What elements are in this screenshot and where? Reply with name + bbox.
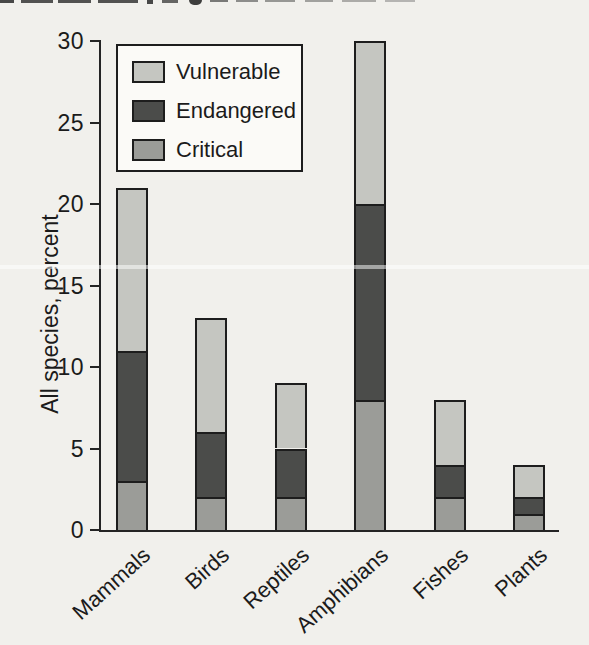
y-tick-30	[90, 40, 100, 42]
torn-text-mark	[21, 0, 53, 3]
legend-swatch-endangered	[132, 100, 165, 122]
endangered-species-stacked-bar-chart: All species, percent 051015202530 Mammal…	[0, 0, 589, 645]
torn-text-mark	[58, 0, 91, 3]
bar-plants-vulnerable	[513, 465, 545, 498]
legend-swatch-vulnerable	[132, 61, 165, 83]
bar-reptiles-critical	[275, 497, 307, 530]
bar-amphibians-endangered	[354, 204, 386, 400]
y-tick-0	[90, 529, 100, 531]
y-tick-label-30: 30	[32, 28, 84, 54]
bar-amphibians-vulnerable	[354, 41, 386, 204]
y-tick-20	[90, 203, 100, 205]
torn-text-mark	[189, 0, 202, 5]
legend-item-critical: Critical	[132, 138, 301, 162]
bar-fishes-vulnerable	[434, 400, 466, 465]
torn-text-mark	[236, 0, 258, 2]
legend-label-critical: Critical	[176, 138, 243, 162]
torn-text-mark	[0, 0, 14, 3]
bar-plants-critical	[513, 514, 545, 530]
legend-item-vulnerable: Vulnerable	[132, 60, 301, 84]
y-tick-label-20: 20	[32, 191, 84, 217]
bar-plants-endangered	[513, 497, 545, 513]
bar-birds-vulnerable	[195, 318, 227, 432]
torn-text-mark	[342, 0, 376, 2]
y-tick-25	[90, 122, 100, 124]
bar-mammals-endangered	[116, 351, 148, 481]
legend: VulnerableEndangeredCritical	[116, 44, 303, 172]
torn-text-mark	[98, 0, 138, 3]
bar-fishes-endangered	[434, 465, 466, 498]
bar-mammals-critical	[116, 481, 148, 530]
x-axis-line	[99, 530, 559, 532]
legend-rows: VulnerableEndangeredCritical	[132, 60, 301, 162]
y-tick-label-15: 15	[32, 273, 84, 299]
y-tick-label-0: 0	[32, 517, 84, 543]
torn-text-mark	[265, 0, 295, 2]
y-tick-label-25: 25	[32, 110, 84, 136]
torn-text-mark	[385, 0, 415, 2]
torn-text-mark	[162, 0, 178, 3]
torn-text-mark	[305, 0, 333, 2]
legend-label-vulnerable: Vulnerable	[176, 60, 280, 84]
bar-fishes-critical	[434, 497, 466, 530]
y-tick-15	[90, 285, 100, 287]
torn-text-mark	[210, 0, 228, 2]
scan-streak-artifact	[0, 265, 589, 269]
y-tick-label-5: 5	[32, 436, 84, 462]
y-tick-5	[90, 448, 100, 450]
y-axis-title: All species, percent	[37, 214, 64, 413]
bar-birds-critical	[195, 497, 227, 530]
legend-swatch-critical	[132, 139, 165, 161]
torn-text-mark	[147, 0, 153, 4]
bar-reptiles-vulnerable	[275, 383, 307, 448]
legend-label-endangered: Endangered	[176, 99, 296, 123]
y-tick-label-10: 10	[32, 354, 84, 380]
bar-amphibians-critical	[354, 400, 386, 530]
bar-birds-endangered	[195, 432, 227, 497]
legend-item-endangered: Endangered	[132, 99, 301, 123]
bar-mammals-vulnerable	[116, 188, 148, 351]
bar-reptiles-endangered	[275, 449, 307, 498]
y-tick-10	[90, 366, 100, 368]
